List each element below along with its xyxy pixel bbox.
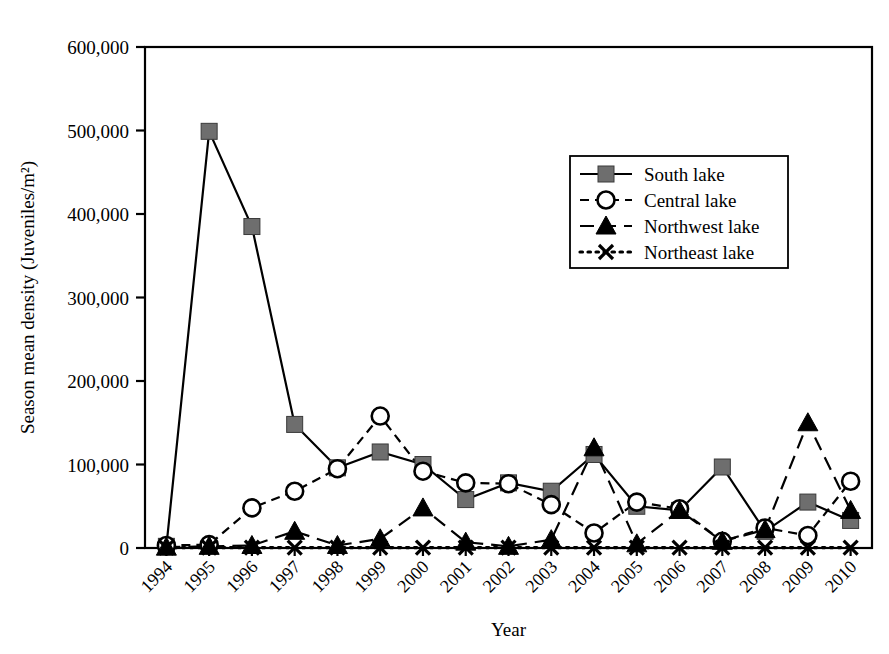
data-point-marker — [285, 521, 305, 539]
x-tick-label: 1997 — [265, 557, 305, 597]
x-tick-label: 2002 — [479, 557, 519, 597]
x-tick-label: 2005 — [607, 557, 647, 597]
y-axis-ticks — [136, 47, 145, 548]
data-point-marker — [628, 494, 645, 511]
legend-label: Central lake — [644, 190, 736, 211]
x-tick-label: 1995 — [179, 557, 219, 597]
data-point-marker — [500, 475, 517, 492]
data-point-marker — [586, 524, 603, 541]
data-point-marker — [800, 494, 816, 510]
y-axis-title: Season mean density (Juveniles/m²) — [17, 161, 39, 434]
legend-label: Northeast lake — [644, 242, 754, 263]
x-tick-label: 2007 — [693, 557, 733, 597]
data-point-marker — [286, 483, 303, 500]
y-tick-label: 400,000 — [67, 204, 129, 225]
data-point-marker — [372, 444, 388, 460]
data-point-marker — [841, 500, 861, 518]
data-point-marker — [372, 408, 389, 425]
data-point-marker — [414, 463, 431, 480]
data-point-marker — [242, 535, 262, 553]
y-tick-label: 0 — [120, 538, 130, 559]
data-point-marker — [243, 499, 260, 516]
x-tick-label: 2001 — [436, 557, 476, 597]
y-tick-label: 600,000 — [67, 37, 129, 58]
data-point-marker — [598, 166, 614, 182]
data-point-marker — [329, 460, 346, 477]
x-tick-label: 2004 — [564, 557, 604, 597]
y-tick-label: 200,000 — [67, 371, 129, 392]
data-point-marker — [842, 473, 859, 490]
data-point-marker — [457, 474, 474, 491]
x-axis-title: Year — [491, 619, 527, 640]
data-point-marker — [370, 529, 390, 547]
line-chart-svg: 0100,000200,000300,000400,000500,000600,… — [0, 0, 889, 654]
chart-legend: South lakeCentral lakeNorthwest lakeNort… — [570, 156, 788, 268]
x-tick-label: 2008 — [735, 557, 775, 597]
data-point-marker — [244, 219, 260, 235]
data-point-marker — [201, 123, 217, 139]
data-point-marker — [287, 416, 303, 432]
y-tick-label: 100,000 — [67, 455, 129, 476]
x-tick-label: 1996 — [222, 557, 262, 597]
data-point-marker — [798, 413, 818, 431]
data-point-marker — [413, 498, 433, 516]
x-tick-label: 2000 — [393, 557, 433, 597]
chart-figure: 0100,000200,000300,000400,000500,000600,… — [0, 0, 889, 654]
x-tick-label: 2006 — [650, 557, 690, 597]
x-axis-tick-labels: 1994199519961997199819992000200120022003… — [137, 557, 861, 597]
data-point-marker — [714, 459, 730, 475]
x-tick-label: 2003 — [521, 557, 561, 597]
data-point-marker — [541, 530, 561, 548]
x-tick-label: 2009 — [778, 557, 818, 597]
legend-label: South lake — [644, 164, 725, 185]
plot-frame — [145, 47, 872, 548]
x-tick-label: 1994 — [137, 557, 177, 597]
x-tick-label: 1999 — [350, 557, 390, 597]
x-tick-label: 2010 — [821, 557, 861, 597]
y-axis-tick-labels: 0100,000200,000300,000400,000500,000600,… — [67, 37, 129, 559]
y-tick-label: 500,000 — [67, 121, 129, 142]
legend-label: Northwest lake — [644, 216, 760, 237]
data-point-marker — [458, 492, 474, 508]
data-point-marker — [543, 496, 560, 513]
data-point-marker — [598, 192, 615, 209]
x-tick-label: 1998 — [308, 557, 348, 597]
y-tick-label: 300,000 — [67, 288, 129, 309]
